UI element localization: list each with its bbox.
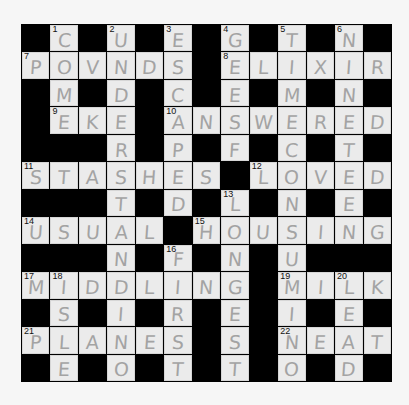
grid-cell[interactable]: T [164, 355, 191, 381]
grid-cell[interactable]: A [335, 327, 362, 353]
grid-cell[interactable]: N [335, 217, 362, 243]
grid-cell[interactable]: D [107, 272, 134, 298]
grid-cell[interactable]: K [364, 272, 391, 298]
grid-cell[interactable]: F [221, 135, 248, 161]
grid-cell[interactable]: U [79, 217, 106, 243]
grid-cell[interactable]: I [278, 52, 305, 78]
grid-cell[interactable]: 17M [22, 272, 49, 298]
grid-cell[interactable]: D [164, 190, 191, 216]
grid-cell[interactable]: I [164, 272, 191, 298]
grid-cell[interactable]: R [364, 52, 391, 78]
grid-cell[interactable]: O [278, 162, 305, 188]
grid-cell[interactable]: S [164, 52, 191, 78]
grid-cell[interactable]: N [107, 327, 134, 353]
grid-cell[interactable]: O [107, 355, 134, 381]
grid-cell[interactable]: D [136, 52, 163, 78]
grid-cell[interactable]: E [335, 162, 362, 188]
grid-cell[interactable]: E [107, 107, 134, 133]
grid-cell[interactable]: R [164, 300, 191, 326]
grid-cell[interactable]: S [164, 327, 191, 353]
grid-cell[interactable]: E [335, 107, 362, 133]
grid-cell[interactable]: G [221, 272, 248, 298]
grid-cell[interactable]: 11S [22, 162, 49, 188]
grid-cell[interactable]: V [79, 52, 106, 78]
grid-cell[interactable]: K [79, 107, 106, 133]
grid-cell[interactable]: S [50, 300, 77, 326]
grid-cell[interactable]: N [278, 190, 305, 216]
grid-cell[interactable]: M [278, 80, 305, 106]
grid-cell[interactable]: T [50, 162, 77, 188]
grid-cell[interactable]: 16F [164, 245, 191, 271]
grid-cell[interactable]: D [79, 272, 106, 298]
grid-cell[interactable]: 1C [50, 25, 77, 51]
grid-cell[interactable]: 13L [221, 190, 248, 216]
grid-cell[interactable]: U [278, 245, 305, 271]
grid-cell[interactable]: 14U [22, 217, 49, 243]
grid-cell[interactable]: X [307, 52, 334, 78]
grid-cell[interactable]: O [50, 52, 77, 78]
grid-cell[interactable]: S [107, 162, 134, 188]
grid-cell[interactable]: L [250, 52, 277, 78]
grid-cell[interactable]: N [221, 245, 248, 271]
grid-cell[interactable]: 2U [107, 25, 134, 51]
grid-cell[interactable]: R [107, 135, 134, 161]
grid-cell[interactable]: 21P [22, 327, 49, 353]
grid-cell[interactable]: N [335, 80, 362, 106]
grid-cell[interactable]: E [307, 327, 334, 353]
grid-cell[interactable]: O [221, 217, 248, 243]
grid-cell[interactable]: S [50, 217, 77, 243]
grid-cell[interactable]: 4G [221, 25, 248, 51]
grid-cell[interactable]: T [107, 190, 134, 216]
grid-cell[interactable]: I [335, 52, 362, 78]
grid-cell[interactable]: T [335, 135, 362, 161]
grid-cell[interactable]: 12L [250, 162, 277, 188]
grid-cell[interactable]: L [50, 327, 77, 353]
grid-cell[interactable]: C [278, 135, 305, 161]
grid-cell[interactable]: M [50, 80, 77, 106]
grid-cell[interactable]: E [335, 300, 362, 326]
grid-cell[interactable]: S [221, 327, 248, 353]
grid-cell[interactable]: I [107, 300, 134, 326]
grid-cell[interactable]: 9E [50, 107, 77, 133]
grid-cell[interactable]: 7P [22, 52, 49, 78]
grid-cell[interactable]: E [50, 355, 77, 381]
grid-cell[interactable]: N [107, 245, 134, 271]
grid-cell[interactable]: I [307, 272, 334, 298]
grid-cell[interactable]: R [307, 107, 334, 133]
grid-cell[interactable]: 6N [335, 25, 362, 51]
grid-cell[interactable]: 8E [221, 52, 248, 78]
grid-cell[interactable]: E [278, 107, 305, 133]
grid-cell[interactable]: 10A [164, 107, 191, 133]
grid-cell[interactable]: E [221, 80, 248, 106]
grid-cell[interactable]: 3E [164, 25, 191, 51]
grid-cell[interactable]: P [164, 135, 191, 161]
grid-cell[interactable]: 15H [193, 217, 220, 243]
grid-cell[interactable]: N [107, 52, 134, 78]
grid-cell[interactable]: E [335, 190, 362, 216]
grid-cell[interactable]: L [136, 272, 163, 298]
grid-cell[interactable]: 20L [335, 272, 362, 298]
grid-cell[interactable]: E [136, 327, 163, 353]
grid-cell[interactable]: O [278, 355, 305, 381]
grid-cell[interactable]: H [136, 162, 163, 188]
grid-cell[interactable]: C [164, 80, 191, 106]
grid-cell[interactable]: W [250, 107, 277, 133]
grid-cell[interactable]: 22N [278, 327, 305, 353]
grid-cell[interactable]: D [107, 80, 134, 106]
grid-cell[interactable]: I [307, 217, 334, 243]
grid-cell[interactable]: T [221, 355, 248, 381]
grid-cell[interactable]: D [335, 355, 362, 381]
grid-cell[interactable]: N [193, 272, 220, 298]
grid-cell[interactable]: A [79, 327, 106, 353]
grid-cell[interactable]: D [364, 107, 391, 133]
grid-cell[interactable]: 18I [50, 272, 77, 298]
grid-cell[interactable]: S [278, 217, 305, 243]
grid-cell[interactable]: V [307, 162, 334, 188]
grid-cell[interactable]: S [221, 107, 248, 133]
grid-cell[interactable]: U [250, 217, 277, 243]
grid-cell[interactable]: N [193, 107, 220, 133]
grid-cell[interactable]: I [278, 300, 305, 326]
grid-cell[interactable]: E [164, 162, 191, 188]
grid-cell[interactable]: T [364, 327, 391, 353]
grid-cell[interactable]: 19M [278, 272, 305, 298]
